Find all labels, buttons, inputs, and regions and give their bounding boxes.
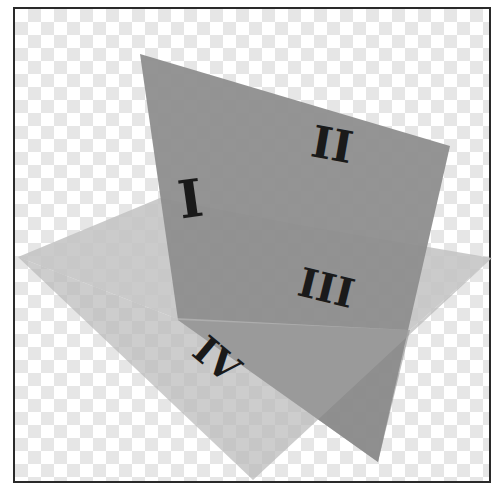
quadrant-label-2: II [308, 116, 357, 173]
planes-diagram: I II III IV [0, 0, 500, 502]
